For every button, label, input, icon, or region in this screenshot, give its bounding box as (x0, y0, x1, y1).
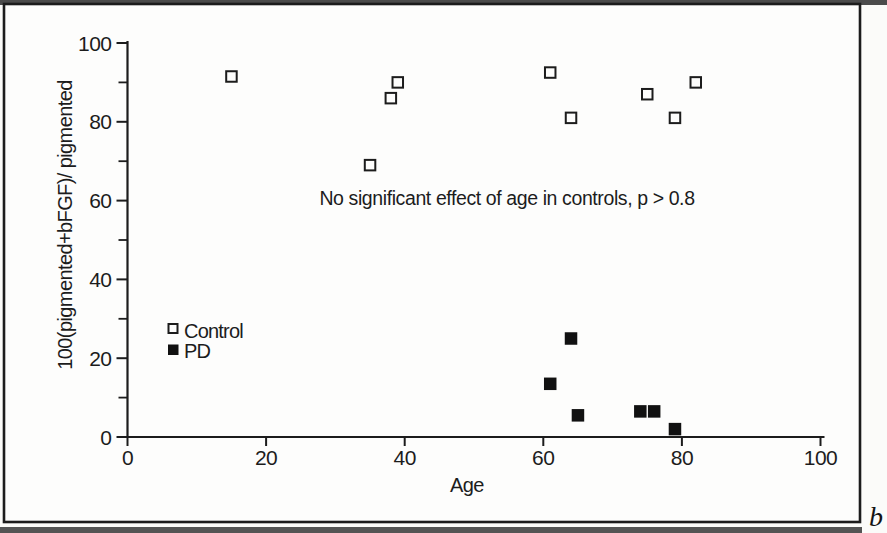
pd-point (572, 409, 585, 422)
control-point (670, 113, 681, 124)
y-tick-label: 0 (100, 426, 111, 449)
pd-point (669, 423, 682, 436)
annotation-text: No significant effect of age in controls… (319, 187, 694, 209)
pd-point (544, 378, 557, 391)
pd-point (648, 405, 661, 418)
control-point (566, 113, 577, 124)
control-point (226, 71, 237, 82)
control-point (365, 160, 376, 171)
control-point (545, 67, 556, 78)
control-point (393, 77, 404, 88)
x-tick-label: 20 (255, 446, 277, 469)
pd-point (565, 332, 578, 345)
y-tick-label: 40 (89, 268, 111, 291)
x-tick-label: 80 (671, 446, 693, 469)
y-tick-label: 80 (89, 110, 111, 133)
pd-point (634, 405, 647, 418)
y-tick-label: 20 (89, 347, 111, 370)
y-axis-title: 100(pigmented+bFGF)/ pigmented (54, 80, 76, 369)
pd-marker-icon (168, 345, 179, 356)
x-tick-label: 0 (122, 446, 133, 469)
y-tick-label: 100 (78, 32, 112, 55)
legend-label-pd: PD (184, 340, 211, 362)
y-tick-label: 60 (89, 189, 111, 212)
control-point (642, 89, 653, 100)
scanned-figure-page: 020406080100020406080100 100(pigmented+b… (0, 0, 887, 533)
figure-frame (4, 4, 860, 522)
legend-label-control: Control (184, 320, 243, 342)
bottom-scan-band (0, 527, 862, 533)
control-marker-icon (169, 324, 178, 333)
figure-svg: 020406080100020406080100 100(pigmented+b… (0, 0, 887, 533)
x-tick-label: 100 (804, 446, 838, 469)
x-axis-title: Age (450, 474, 484, 496)
control-point (691, 77, 702, 88)
x-tick-label: 60 (532, 446, 554, 469)
x-tick-label: 40 (394, 446, 416, 469)
control-point (386, 93, 397, 104)
panel-label: b (869, 501, 883, 532)
